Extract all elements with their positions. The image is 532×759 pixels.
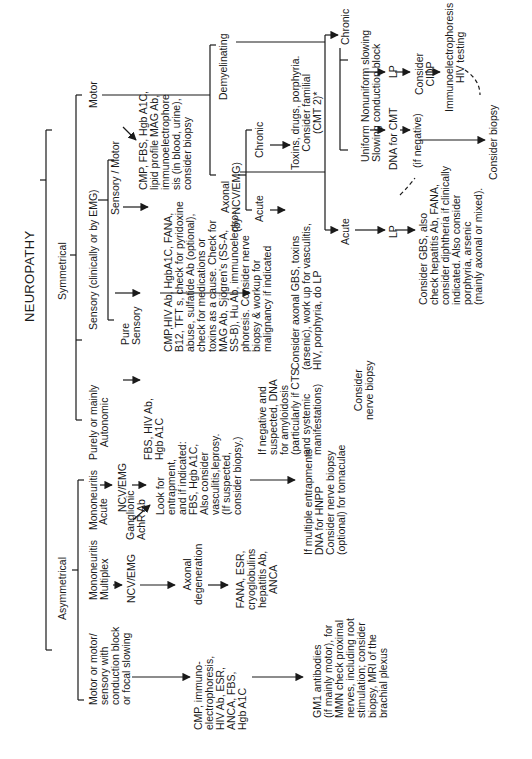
- node-consider-biopsy: Consider biopsy: [488, 105, 499, 180]
- flowchart-canvas: NEUROPATHY Symmetrical Asymmetrical Moto…: [0, 0, 532, 759]
- node-lp-chronic: LP: [388, 65, 399, 78]
- node-demy-acute: Acute: [340, 218, 351, 245]
- node-amyloid: If negative and suspected, DNA for amylo…: [257, 369, 323, 455]
- node-vasculitis-workup: FANA, ESR, cryoglobulins hepatitis Ab, A…: [235, 549, 279, 610]
- node-mononeuritis-multiplex: Mononeuritis Multiplex: [88, 540, 110, 600]
- node-uniform-slowing: Uniform Slowing: [360, 125, 382, 162]
- node-immunoelectrophoresis: Immunoelectrophoresis HIV testing: [444, 3, 466, 112]
- node-consider-cidp: Consider CIDP: [414, 53, 436, 95]
- node-dna-cmt: DNA for CMT: [388, 108, 399, 170]
- node-lp-acute: LP: [388, 225, 399, 238]
- branch-symmetrical: Symmetrical: [57, 242, 68, 300]
- node-sensory: Sensory (clinically or by EMG): [88, 189, 99, 330]
- node-if-negative: (if negative): [412, 113, 423, 168]
- branch-asymmetrical: Asymmetrical: [57, 557, 68, 620]
- node-mononeuritis: Mononeuritis: [88, 470, 99, 530]
- node-pure-sensory: Pure Sensory: [120, 306, 142, 345]
- node-motor-focal-workup: CMP, immuno- electrophoresis, HIV Ab, ES…: [193, 656, 248, 730]
- node-demy-chronic: Chronic: [340, 9, 351, 45]
- node-axonal-acute: Acute: [254, 195, 265, 222]
- node-ncv-emg-2: NCV/EMG: [126, 554, 137, 603]
- node-ganglionic: Ganglionic AchR Ab: [125, 490, 147, 540]
- node-gm1: GM1 antibodies (if mainly motor), for MM…: [312, 618, 389, 718]
- node-sensory-motor: Sensory / Motor: [110, 141, 121, 215]
- node-autonomic-acute: Acute: [98, 498, 109, 525]
- node-gbs-workup: Consider GBS, also check hepatitis Ab, F…: [418, 166, 484, 305]
- node-motor-focal: Motor or motor/ sensory with conduction …: [88, 627, 132, 705]
- node-nonuniform-slowing: Nonuniform slowing conduction block: [360, 30, 382, 122]
- node-demyelinating: Demyelinating: [218, 33, 229, 100]
- node-autonomic: Purely or mainly Autonomic: [88, 385, 110, 460]
- node-entrapment: Look for entrapment, and if indicated: F…: [155, 434, 243, 516]
- node-ncv-emg-1: NCV/EMG: [117, 463, 128, 512]
- title-neuropathy: NEUROPATHY: [24, 231, 35, 322]
- node-sensory-motor-workup: CMP, FBS, Hgb A1C, lipid profile MAG Ab,…: [138, 91, 193, 190]
- node-hnpp: If multiple entrapments DNA for HNPP Con…: [303, 445, 347, 555]
- node-motor: Motor: [88, 81, 99, 108]
- node-pure-sensory-workup: CMP,HIV Ab, HgbA1C, FANA, B12, TFT s, ch…: [163, 201, 273, 352]
- node-axonal: Axonal (by NCV/EMG): [220, 162, 242, 232]
- node-axonal-acute-workup: Consider axonal GBS, toxins (arsenic), w…: [290, 223, 323, 370]
- node-nerve-biopsy: Consider nerve biopsy: [353, 360, 375, 420]
- node-axonal-chronic: Chronic: [254, 122, 265, 158]
- node-axonal-degeneration: Axonal degeneration: [182, 544, 204, 605]
- node-axonal-chronic-workup: Toxins, drugs, porphyria. Consider famil…: [290, 56, 323, 170]
